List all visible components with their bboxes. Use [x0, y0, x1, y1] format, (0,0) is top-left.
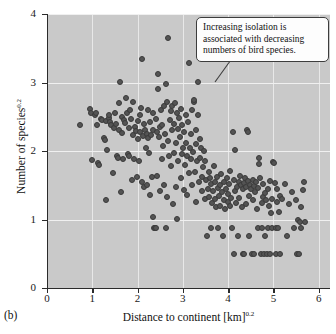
data-point: [162, 131, 168, 137]
panel-letter: (b): [4, 309, 17, 321]
data-point: [154, 173, 160, 179]
data-point: [118, 189, 124, 195]
data-point: [172, 100, 178, 106]
data-point: [193, 127, 199, 133]
data-point: [155, 71, 161, 77]
data-point: [265, 186, 271, 192]
y-axis-tick: [42, 83, 47, 84]
data-point: [135, 118, 141, 124]
data-point: [208, 225, 214, 231]
data-point: [298, 225, 304, 231]
data-point: [284, 233, 290, 239]
data-point: [137, 112, 143, 118]
data-point: [220, 233, 226, 239]
y-axis-tick-label: 4: [22, 7, 36, 19]
data-point: [185, 119, 191, 125]
data-point: [206, 169, 212, 175]
data-point: [251, 251, 257, 257]
y-axis-tick: [42, 220, 47, 221]
data-point: [183, 112, 189, 118]
data-point: [173, 184, 179, 190]
data-point: [301, 179, 307, 185]
data-point: [256, 155, 262, 161]
data-point: [227, 168, 233, 174]
data-point: [293, 197, 299, 203]
data-point: [275, 225, 281, 231]
data-point: [250, 197, 256, 203]
data-point: [127, 107, 133, 113]
data-point: [161, 182, 167, 188]
scatter-figure: 012340123456 Number of species0.2 Distan…: [0, 0, 336, 334]
data-point: [302, 219, 308, 225]
y-axis-tick: [42, 151, 47, 152]
data-point: [298, 204, 304, 210]
data-point: [120, 156, 126, 162]
gridline-horizontal: [47, 151, 330, 152]
data-point: [136, 158, 142, 164]
data-point: [202, 158, 208, 164]
data-point: [168, 108, 174, 114]
y-axis-label: Number of species0.2: [15, 51, 28, 241]
data-point: [110, 170, 116, 176]
data-point: [171, 150, 177, 156]
data-point: [274, 186, 280, 192]
data-point: [177, 134, 183, 140]
data-point: [163, 81, 169, 87]
data-point: [178, 106, 184, 112]
data-point: [168, 163, 174, 169]
data-point: [89, 157, 95, 163]
data-point: [243, 201, 249, 207]
x-axis-label: Distance to continent [km]0.2: [47, 310, 330, 323]
y-axis-tick-label: 0: [22, 281, 36, 293]
data-point: [286, 201, 292, 207]
data-point: [139, 56, 145, 62]
x-axis-tick-label: 0: [37, 292, 57, 304]
data-point: [94, 122, 100, 128]
data-point: [150, 110, 156, 116]
data-point: [178, 175, 184, 181]
data-point: [96, 162, 102, 168]
data-point: [230, 129, 236, 135]
x-axis-tick-label: 3: [173, 292, 193, 304]
data-point: [176, 115, 182, 121]
data-point: [193, 199, 199, 205]
data-point: [195, 112, 201, 118]
y-axis-label-exponent: 0.2: [15, 99, 23, 108]
data-point: [229, 225, 235, 231]
data-point: [157, 188, 163, 194]
data-point: [123, 95, 129, 101]
data-point: [227, 203, 233, 209]
data-point: [186, 170, 192, 176]
data-point: [165, 35, 171, 41]
data-point: [153, 225, 159, 231]
data-point: [211, 163, 217, 169]
x-axis-label-exponent: 0.2: [246, 310, 255, 318]
data-point: [235, 233, 241, 239]
x-axis-tick-label: 1: [82, 292, 102, 304]
data-point: [241, 251, 247, 257]
y-axis-tick: [42, 14, 47, 15]
data-point: [296, 251, 302, 257]
data-point: [160, 143, 166, 149]
data-point: [215, 225, 221, 231]
x-axis-tick-label: 5: [263, 292, 283, 304]
data-point: [153, 116, 159, 122]
data-point: [236, 195, 242, 201]
data-point: [182, 162, 188, 168]
data-point: [165, 138, 171, 144]
data-point: [138, 105, 144, 111]
data-point: [117, 79, 123, 85]
data-point: [144, 182, 150, 188]
data-point: [169, 127, 175, 133]
x-axis-label-text: Distance to continent [km]: [123, 311, 246, 323]
data-point: [206, 194, 212, 200]
data-point: [159, 156, 165, 162]
data-point: [93, 110, 99, 116]
data-point: [190, 149, 196, 155]
data-point: [147, 192, 153, 198]
data-point: [277, 251, 283, 257]
x-axis-tick-label: 4: [218, 292, 238, 304]
x-axis-line: [47, 288, 330, 289]
data-point: [231, 251, 237, 257]
data-point: [146, 150, 152, 156]
